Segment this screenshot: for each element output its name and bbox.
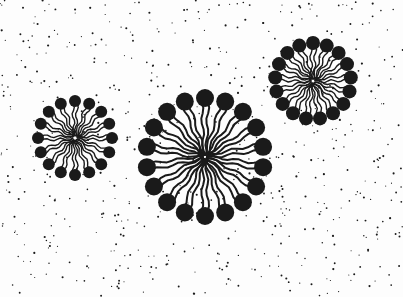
solvent-dot <box>149 272 150 273</box>
solvent-dot <box>286 208 287 209</box>
solvent-dot <box>114 214 116 216</box>
solvent-dot <box>342 4 343 5</box>
solvent-dot <box>100 172 102 174</box>
hydrophilic-head <box>103 146 115 158</box>
solvent-dot <box>347 169 349 171</box>
solvent-dot <box>129 201 130 202</box>
solvent-dot <box>350 124 352 126</box>
hydrophilic-head <box>270 84 284 98</box>
solvent-dot <box>263 90 265 92</box>
solvent-dot <box>33 23 34 24</box>
solvent-dot <box>122 235 124 237</box>
solvent-dot <box>53 235 54 236</box>
solvent-dot <box>69 42 70 43</box>
solvent-dot <box>332 235 334 237</box>
solvent-dot <box>380 127 381 128</box>
solvent-dot <box>22 7 24 9</box>
solvent-dot <box>227 262 229 264</box>
hydrophilic-head <box>332 46 346 60</box>
solvent-dot <box>381 103 382 104</box>
solvent-dot <box>94 58 96 60</box>
solvent-dot <box>281 5 282 6</box>
solvent-dot <box>194 272 195 273</box>
solvent-dot <box>46 240 48 242</box>
solvent-dot <box>57 246 58 247</box>
solvent-dot <box>372 15 374 17</box>
solvent-dot <box>351 250 352 251</box>
solvent-dot <box>109 87 111 89</box>
solvent-dot <box>165 264 167 266</box>
solvent-dot <box>176 122 177 123</box>
solvent-dot <box>218 47 220 49</box>
solvent-dot <box>185 20 187 22</box>
solvent-dot <box>126 136 128 138</box>
solvent-dot <box>391 138 393 140</box>
solvent-dot <box>218 63 220 65</box>
solvent-dot <box>278 266 279 267</box>
solvent-dot <box>28 40 29 41</box>
solvent-dot <box>310 159 312 161</box>
solvent-dot <box>339 217 340 218</box>
solvent-dot <box>254 269 256 271</box>
solvent-dot <box>237 168 239 170</box>
solvent-dot <box>326 30 328 32</box>
solvent-dot <box>282 188 284 190</box>
solvent-dot <box>251 268 252 269</box>
solvent-dot <box>268 31 269 32</box>
solvent-dot <box>132 40 134 42</box>
hydrophilic-head <box>286 106 300 120</box>
solvent-dot <box>323 173 325 175</box>
solvent-dot <box>15 230 16 231</box>
solvent-dot <box>24 244 25 245</box>
solvent-dot <box>150 80 152 82</box>
solvent-dot <box>113 84 115 86</box>
solvent-dot <box>372 3 374 5</box>
hydrophilic-head <box>138 138 156 156</box>
solvent-dot <box>382 221 384 223</box>
solvent-dot <box>2 84 3 85</box>
solvent-dot <box>392 9 394 11</box>
solvent-dot <box>111 286 112 287</box>
hydrophilic-head <box>55 98 67 110</box>
hydrophilic-head <box>234 103 252 121</box>
hydrophilic-head <box>254 138 272 156</box>
solvent-dot <box>268 66 270 68</box>
solvent-dot <box>184 251 186 253</box>
hydrophilic-head <box>234 193 252 211</box>
solvent-dot <box>129 13 131 15</box>
solvent-dot <box>395 233 397 235</box>
solvent-dot <box>68 77 69 78</box>
solvent-dot <box>49 242 50 243</box>
solvent-dot <box>10 94 11 95</box>
solvent-dot <box>256 137 258 139</box>
solvent-dot <box>6 189 7 190</box>
solvent-dot <box>84 280 86 282</box>
solvent-dot <box>238 123 239 124</box>
solvent-dot <box>317 130 319 132</box>
solvent-dot <box>226 283 227 284</box>
solvent-dot <box>47 44 49 46</box>
solvent-dot <box>162 85 164 87</box>
solvent-dot <box>2 223 3 224</box>
solvent-dot <box>127 111 129 113</box>
solvent-dot <box>88 267 89 268</box>
solvent-dot <box>368 129 369 130</box>
solvent-dot <box>357 219 359 221</box>
hydrophilic-head <box>95 106 107 118</box>
solvent-dot <box>315 108 316 109</box>
solvent-dot <box>129 101 130 102</box>
hydrophilic-head <box>145 119 163 137</box>
solvent-dot <box>274 225 276 227</box>
solvent-dot <box>115 269 117 271</box>
solvent-dot <box>191 66 192 67</box>
solvent-dot <box>30 274 31 275</box>
solvent-dot <box>140 266 141 267</box>
solvent-dot <box>304 144 305 145</box>
solvent-dot <box>301 265 302 266</box>
micelle-small-left <box>32 95 118 181</box>
solvent-dot <box>150 266 152 268</box>
solvent-dot <box>9 191 11 193</box>
solvent-dot <box>152 278 154 280</box>
solvent-dot <box>389 217 391 219</box>
solvent-dot <box>267 86 269 88</box>
